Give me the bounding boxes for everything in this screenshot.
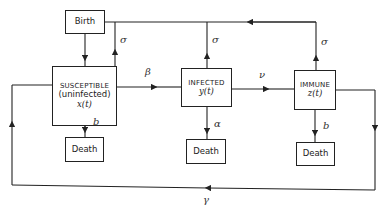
immune-var: z(t) — [308, 89, 323, 99]
sir-diagram: Birth SUSCEPTIBLE (uninfected) x(t) INFE… — [0, 0, 386, 213]
gamma-label: γ — [203, 194, 209, 205]
death-node-infected: Death — [186, 139, 226, 164]
death-label: Death — [193, 147, 219, 157]
susceptible-node: SUSCEPTIBLE (uninfected) x(t) — [52, 66, 117, 126]
b-label-susceptible: b — [93, 116, 99, 127]
birth-node: Birth — [65, 10, 105, 34]
beta-label: β — [145, 66, 151, 77]
infected-var: y(t) — [199, 87, 214, 97]
sigma-label-susceptible: σ — [120, 34, 127, 45]
birth-label: Birth — [75, 17, 95, 27]
immune-node: IMMUNE z(t) — [294, 70, 336, 110]
death-node-susceptible: Death — [65, 137, 104, 162]
sigma-label-infected: σ — [212, 34, 219, 45]
death-label: Death — [72, 145, 98, 155]
sigma-label-immune: σ — [321, 36, 328, 47]
death-label: Death — [303, 149, 329, 159]
susceptible-var: x(t) — [77, 100, 92, 110]
nu-label: ν — [259, 69, 265, 80]
b-label-immune: b — [323, 120, 329, 131]
death-node-immune: Death — [296, 142, 335, 166]
alpha-label: α — [214, 118, 221, 129]
infected-node: INFECTED y(t) — [181, 68, 232, 107]
